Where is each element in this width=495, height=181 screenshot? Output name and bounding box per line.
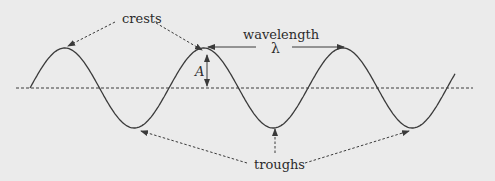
troughs-label: troughs xyxy=(254,157,305,172)
crest-arrow-right xyxy=(156,23,202,50)
trough-arrow-right xyxy=(305,131,409,163)
crests-label: crests xyxy=(122,11,162,26)
lambda-symbol: λ xyxy=(271,40,280,56)
amplitude-label: A xyxy=(194,64,204,79)
crest-arrow-left xyxy=(68,22,115,46)
wave-diagram: crests wavelength λ A troughs xyxy=(0,0,495,181)
trough-arrow-left xyxy=(141,131,247,163)
wavelength-label: wavelength xyxy=(243,27,320,42)
